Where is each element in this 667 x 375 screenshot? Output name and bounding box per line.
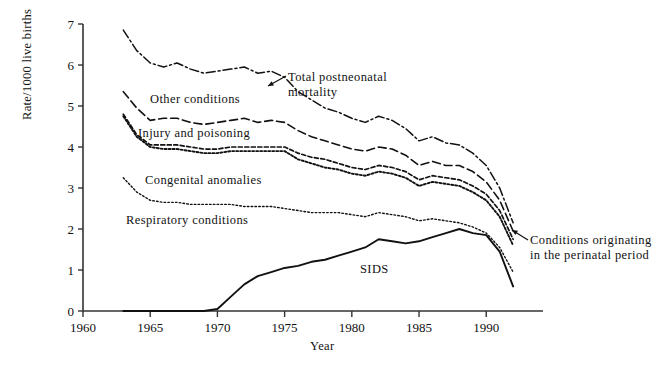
series-label-respiratory-conditions: Respiratory conditions	[126, 213, 248, 228]
x-tick-label: 1985	[406, 320, 432, 335]
series-label-sids: SIDS	[360, 262, 389, 277]
annotation-perinatal-line2: in the perinatal period	[530, 248, 649, 262]
x-tick-label: 1970	[204, 320, 230, 335]
x-tick-label: 1960	[70, 320, 96, 335]
series-line-other-conditions	[123, 92, 513, 231]
y-tick-label: 1	[68, 263, 75, 278]
annotation-perinatal-line1: Conditions originating	[530, 233, 652, 247]
x-tick-label: 1980	[339, 320, 365, 335]
series-line-sids	[123, 229, 513, 311]
y-tick-label: 2	[68, 222, 75, 237]
x-tick-label: 1975	[272, 320, 298, 335]
x-axis-title: Year	[310, 339, 335, 354]
x-tick-label: 1965	[137, 320, 163, 335]
series-label-injury-and-poisoning: Injury and poisoning	[138, 126, 250, 141]
y-tick-label: 3	[68, 181, 75, 196]
postneonatal-mortality-chart: 012345671960196519701975198019851990 Rat…	[0, 0, 667, 375]
series-label-congenital-anomalies: Congenital anomalies	[145, 173, 262, 188]
y-axis-title: Rate/1000 live births	[20, 104, 35, 120]
y-tick-label: 6	[68, 58, 75, 73]
y-tick-label: 5	[68, 99, 75, 114]
y-tick-label: 0	[68, 304, 75, 319]
x-tick-label: 1990	[473, 320, 499, 335]
annotation-total-postneonatal-line2: mortality	[288, 85, 337, 99]
y-tick-label: 4	[68, 140, 75, 155]
series-label-other-conditions: Other conditions	[150, 92, 240, 107]
chart-canvas: 012345671960196519701975198019851990	[0, 0, 667, 375]
annotation-total-postneonatal-line1: Total postneonatal	[288, 70, 387, 84]
y-tick-label: 7	[68, 17, 75, 32]
